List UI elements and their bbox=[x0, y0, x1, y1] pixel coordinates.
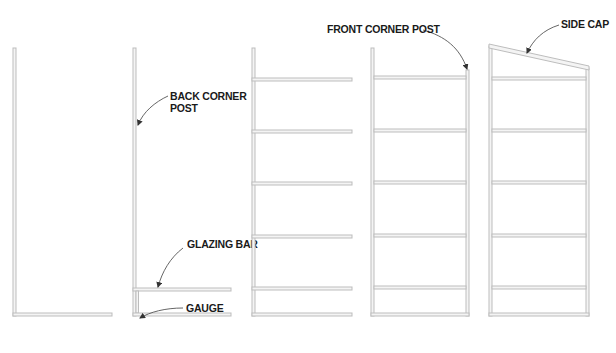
glazing-bar bbox=[374, 76, 466, 79]
stage-5-frame: SIDE CAP bbox=[489, 18, 609, 316]
glazing-bar-leader bbox=[158, 248, 183, 287]
glazing-bar bbox=[133, 288, 231, 291]
side-cap-label: SIDE CAP bbox=[561, 18, 609, 30]
glazing-bar-label: GLAZING BAR bbox=[187, 238, 258, 250]
stage-1-frame bbox=[13, 48, 112, 316]
glazing-bar bbox=[492, 129, 586, 132]
glazing-bar bbox=[374, 234, 466, 237]
glazing-bar bbox=[252, 130, 352, 133]
glazing-bar bbox=[492, 77, 586, 80]
glazing-bar bbox=[252, 235, 352, 238]
side-cap-leader bbox=[527, 25, 559, 53]
stage-3-frame bbox=[252, 48, 352, 316]
gauge-label: GAUGE bbox=[186, 302, 224, 314]
bottom-rail bbox=[13, 313, 112, 316]
bottom-rail bbox=[489, 313, 589, 316]
glazing-bar bbox=[374, 286, 466, 289]
bottom-rail bbox=[252, 313, 352, 316]
stage-4-frame: FRONT CORNER POST bbox=[327, 23, 469, 316]
back-corner-post bbox=[13, 48, 16, 316]
glazing-bar bbox=[252, 182, 352, 185]
back-corner-post bbox=[133, 48, 136, 316]
side-cap bbox=[489, 44, 589, 70]
front-corner-post-label: FRONT CORNER POST bbox=[327, 23, 440, 35]
back-corner-post-label-line2: POST bbox=[170, 102, 199, 114]
framing-diagram: BACK CORNER POST GLAZING BAR GAUGE FRONT… bbox=[0, 0, 616, 353]
front-corner-post-leader bbox=[423, 30, 467, 69]
back-corner-post-leader bbox=[138, 96, 168, 125]
glazing-bar bbox=[252, 287, 352, 290]
back-corner-post-label: BACK CORNER bbox=[170, 90, 247, 102]
stage-2-frame: BACK CORNER POST GLAZING BAR GAUGE bbox=[133, 48, 258, 318]
glazing-bar bbox=[492, 234, 586, 237]
gauge bbox=[136, 291, 139, 313]
glazing-bar bbox=[492, 181, 586, 184]
front-corner-post bbox=[586, 68, 589, 316]
glazing-bar bbox=[492, 286, 586, 289]
front-corner-post bbox=[466, 70, 469, 316]
glazing-bar bbox=[374, 129, 466, 132]
glazing-bar bbox=[374, 181, 466, 184]
bottom-rail bbox=[371, 313, 469, 316]
glazing-bar bbox=[252, 78, 352, 81]
